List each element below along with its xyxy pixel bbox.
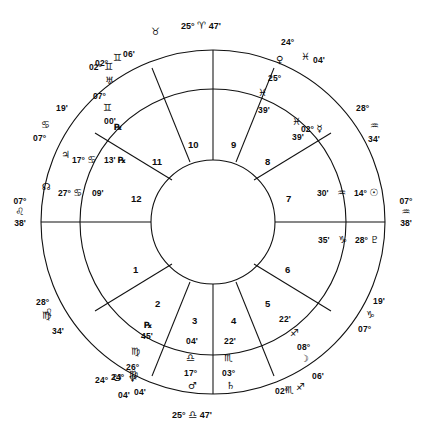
ic-minute: 47' [200, 410, 212, 420]
sun-degree: 14° [354, 188, 367, 198]
house-number-11: 11 [152, 157, 162, 167]
mercury-min-val: 39' [292, 133, 304, 142]
planet-uranus-position: 02° ♊ [89, 62, 113, 72]
pluto-degree: 28° [355, 235, 368, 245]
asc-sign-glyph: ♌ [7, 206, 33, 218]
taurus-tick-icon: ♉ [151, 27, 160, 37]
dsc-degree: 07° [400, 196, 413, 206]
house-number-12: 12 [131, 194, 142, 204]
cusp-8-sign-glyph: ♒ [370, 121, 379, 131]
moon-degree: 08° [297, 343, 310, 352]
cusp-6-degree: 07° [358, 325, 371, 334]
asc-minute: 38' [14, 218, 25, 228]
planet-jupiter-position: 17° ♋ 13' ℞ [72, 155, 126, 165]
mars-sign-glyph: ♎ [186, 353, 195, 363]
jupiter-sign-glyph: ♋ [87, 154, 96, 165]
neptune-minute: 45' [141, 332, 153, 341]
snode-degree: 24° [95, 376, 108, 385]
cusp-12-minute: 19' [56, 104, 68, 113]
node-sign-glyph: ♋ [73, 187, 82, 198]
cusp-12-degree: 07° [33, 134, 46, 143]
moon-sign-glyph: ♐ [290, 328, 299, 338]
south-node-icon: ☋ [113, 373, 122, 383]
cusp-2-sign-glyph-dup: ♍ [42, 311, 51, 321]
mars-minute: 04' [186, 337, 198, 346]
plutonode-degree: 07° [93, 91, 106, 101]
node-minute: 09' [92, 188, 103, 198]
ic-degree: 25° [172, 410, 186, 420]
cusp-12-sign-glyph: ♋ [41, 120, 50, 130]
planet-pluto-position: 35' ♑ 28° ♇ [318, 235, 379, 245]
cusp-5-minute: 06' [312, 372, 324, 381]
uranus-sign-glyph: ♊ [104, 61, 113, 72]
cusp-11-minute: 06' [123, 50, 135, 59]
uranus-icon: ♅ [105, 76, 114, 86]
venus-degree: 25° [268, 74, 281, 83]
dsc-minute: 38' [400, 218, 411, 228]
cusp-spokes [41, 50, 385, 394]
planet-mercury-position: 02° ☿ [301, 124, 322, 134]
mars-degree: 17° [184, 369, 197, 378]
neptune-icon: ♆ [128, 374, 137, 384]
house-number-6: 6 [285, 265, 290, 275]
venus-icon: ♀ [276, 55, 283, 65]
house-number-8: 8 [265, 157, 270, 167]
venus-sign-glyph: ♓ [258, 88, 267, 98]
scorpio-mark-icon: ♏ [285, 385, 294, 395]
imum-coeli-label: 25° ♎ 47' [172, 409, 212, 420]
mc-sign-glyph: ♈ [197, 20, 206, 31]
planet-north-node-position: 27° ♋ 09' [58, 188, 103, 198]
wheel-graphic [0, 0, 426, 443]
cusp-9-sign-glyph: ♓ [301, 52, 310, 62]
venus-minute: 39' [258, 106, 270, 115]
house-number-9: 9 [231, 140, 236, 150]
pluto-sign-glyph: ♑ [338, 234, 347, 245]
plutonode-sign-glyph: ♊ [103, 103, 112, 113]
sun-sign-glyph: ♒ [337, 187, 346, 198]
snode-minute: 04' [118, 391, 130, 400]
node-degree: 27° [58, 188, 71, 198]
planet-gemini7-position: 07° [93, 91, 106, 100]
cusp-6-sign-glyph: ♑ [366, 310, 375, 320]
sun-icon: ☉ [369, 187, 378, 198]
pluto-icon: ♇ [370, 234, 379, 245]
descendant-label: 07° ♒ 38' [393, 196, 419, 228]
saturn-minute: 22' [224, 337, 236, 346]
jupiter-minute: 13' [104, 155, 115, 165]
cusp-2-minute: 34' [52, 327, 64, 336]
house-number-5: 5 [265, 299, 270, 309]
jupiter-retrograde-icon: ℞ [118, 155, 126, 165]
dsc-sign-glyph: ♒ [393, 206, 419, 218]
midheaven-label: 25° ♈ 47' [181, 20, 221, 31]
mercury-sign-glyph: ♓ [292, 117, 301, 127]
moon-icon: ☽ [300, 354, 309, 364]
saturn-sign-glyph: ♏ [224, 353, 233, 363]
cusp-9-minute: 04' [313, 56, 325, 65]
planet-sun-position: 30' ♒ 14° ☉ [317, 188, 378, 198]
saturn-degree: 03° [222, 369, 235, 378]
neptune-retrograde-icon: ℞ [144, 320, 152, 330]
natal-chart-wheel: 25° ♈ 47' 25° ♎ 47' 07° ♌ 38' 07° ♒ 38' … [0, 0, 426, 443]
house-number-3: 3 [192, 316, 197, 326]
jupiter-icon: ♃ [61, 150, 70, 160]
neptune-sign-glyph: ♍ [131, 347, 140, 357]
plutonode-retrograde-icon: ℞ [114, 122, 122, 132]
cusp-2-degree: 28° [36, 298, 49, 307]
sun-minute: 30' [317, 188, 328, 198]
saturn-icon: ♄ [226, 381, 235, 391]
asc-degree: 07° [14, 196, 27, 206]
house-number-7: 7 [286, 194, 291, 204]
ic-sign-glyph: ♎ [188, 409, 197, 420]
house-number-10: 10 [188, 140, 199, 150]
cusp-8-minute: 34' [368, 135, 380, 144]
moon-minute: 22' [279, 315, 291, 324]
cusp-5-sign-glyph: ♐ [296, 382, 305, 392]
cusp-6-minute: 19' [373, 297, 385, 306]
mercury-icon: ☿ [316, 123, 322, 134]
north-node-icon: ☊ [42, 182, 51, 192]
pluto-minute: 35' [318, 235, 329, 245]
house-number-1: 1 [133, 265, 138, 275]
mc-minute: 47' [209, 21, 221, 31]
house-number-2: 2 [155, 299, 160, 309]
cusp-8-degree: 28° [356, 104, 369, 113]
